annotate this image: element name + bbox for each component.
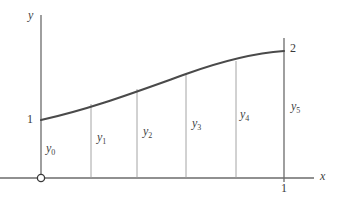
y-tick-label-2: 2 bbox=[290, 42, 296, 54]
x-axis-label: x bbox=[320, 170, 325, 182]
origin-marker-icon bbox=[37, 174, 44, 181]
x-tick-label-1: 1 bbox=[281, 182, 287, 194]
figure-canvas bbox=[0, 0, 341, 208]
trapezoidal-rule-figure: y x 1 2 1 y0 y1 y2 y3 y4 y5 bbox=[0, 0, 341, 208]
ordinate-label-y4-sub: 4 bbox=[245, 114, 249, 123]
ordinate-label-y2: y2 bbox=[143, 125, 152, 137]
ordinate-label-y4: y4 bbox=[240, 108, 249, 120]
ordinate-label-y2-sub: 2 bbox=[148, 131, 152, 140]
ordinate-label-y1: y1 bbox=[97, 131, 106, 143]
ordinate-label-y0: y0 bbox=[46, 142, 55, 154]
ordinate-label-y0-sub: 0 bbox=[51, 148, 55, 157]
ordinate-label-y3: y3 bbox=[192, 117, 201, 129]
ordinate-label-y3-sub: 3 bbox=[197, 123, 201, 132]
y-tick-label-1: 1 bbox=[27, 113, 33, 125]
ordinate-label-y5-sub: 5 bbox=[296, 106, 300, 115]
y-axis-label: y bbox=[28, 9, 33, 21]
ordinate-label-y1-sub: 1 bbox=[102, 137, 106, 146]
ordinate-label-y5: y5 bbox=[291, 100, 300, 112]
